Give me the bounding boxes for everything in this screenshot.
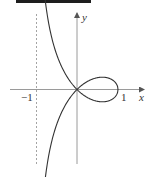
tick-label-one: 1 [121, 91, 127, 103]
x-axis-label: x [138, 91, 144, 103]
y-axis-label: y [81, 11, 87, 23]
tick-label-neg-one: −1 [21, 91, 33, 103]
strophoid-graph: −1 1 x y [0, 0, 155, 177]
strophoid-curve [39, 0, 118, 177]
